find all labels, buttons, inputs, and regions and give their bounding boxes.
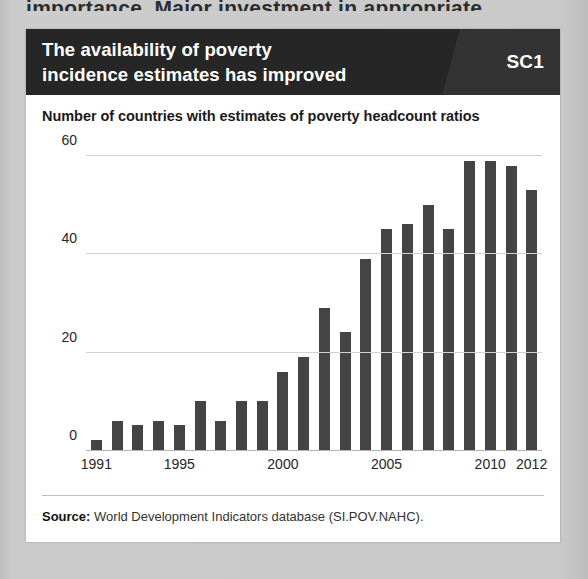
chart-bar-slot	[438, 146, 459, 450]
chart-bar	[402, 224, 413, 450]
chart-bar	[506, 166, 517, 450]
chart-bar	[485, 161, 496, 450]
chart-bars	[86, 146, 542, 450]
y-axis-tick-label: 60	[61, 132, 77, 148]
chart-subtitle: Number of countries with estimates of po…	[42, 108, 560, 124]
figure-header: The availability of poverty incidence es…	[26, 29, 560, 95]
figure-title: The availability of poverty incidence es…	[42, 37, 412, 87]
x-axis-tick-label: 2005	[371, 456, 402, 472]
chart-bar-slot	[148, 146, 169, 450]
chart-gridline	[86, 253, 542, 254]
chart-bar-slot	[397, 146, 418, 450]
figure-card: The availability of poverty incidence es…	[26, 29, 560, 542]
y-axis-tick-label: 0	[69, 427, 77, 443]
y-axis-tick-label: 40	[61, 230, 77, 246]
chart-bar-slot	[376, 146, 397, 450]
chart-plot-wrapper: 0204060199119952000200520102012	[26, 134, 560, 464]
chart-bar	[360, 259, 371, 450]
x-axis-tick-label: 1991	[81, 456, 112, 472]
cutoff-body-text: importance. Major investment in appropri…	[26, 0, 566, 11]
chart-bar	[132, 425, 143, 450]
figure-title-line1: The availability of poverty	[42, 39, 272, 60]
chart-bar	[443, 229, 454, 450]
chart-gridline	[86, 155, 542, 156]
chart-bar	[112, 421, 123, 450]
x-axis-tick-label: 1995	[164, 456, 195, 472]
chart-bar-slot	[190, 146, 211, 450]
chart-bar	[319, 308, 330, 450]
chart-bar	[277, 372, 288, 450]
chart-bar-slot	[107, 146, 128, 450]
chart-bar-slot	[273, 146, 294, 450]
chart-bar	[298, 357, 309, 450]
chart-bar-slot	[501, 146, 522, 450]
chart-bar-slot	[480, 146, 501, 450]
footer-divider	[42, 495, 544, 496]
chart-bar	[423, 205, 434, 450]
chart-bar-slot	[169, 146, 190, 450]
figure-source: Source: World Development Indicators dat…	[42, 509, 424, 524]
chart-bar	[464, 161, 475, 450]
chart-bar	[526, 190, 537, 450]
chart-bar	[236, 401, 247, 450]
chart-bar	[195, 401, 206, 450]
chart-bar	[215, 421, 226, 450]
chart-gridline	[86, 352, 542, 353]
chart-bar	[153, 421, 164, 450]
y-axis-tick-label: 20	[61, 329, 77, 345]
chart-bar	[257, 401, 268, 450]
chart-bar-slot	[293, 146, 314, 450]
chart-bar-slot	[86, 146, 107, 450]
chart-bar-slot	[418, 146, 439, 450]
chart-bar	[340, 332, 351, 450]
chart-bar-slot	[335, 146, 356, 450]
chart-bar-slot	[356, 146, 377, 450]
chart-bar-slot	[231, 146, 252, 450]
figure-badge: SC1	[506, 51, 544, 73]
source-label: Source:	[42, 509, 90, 524]
chart-bar	[91, 440, 102, 450]
x-axis-tick-label: 2010	[475, 456, 506, 472]
chart-bar-slot	[314, 146, 335, 450]
chart-bar-slot	[459, 146, 480, 450]
figure-title-line2: incidence estimates has improved	[42, 64, 346, 85]
x-axis-tick-label: 2012	[516, 456, 547, 472]
chart-baseline	[86, 450, 542, 451]
chart-bar-slot	[521, 146, 542, 450]
chart-bar	[174, 425, 185, 450]
chart-bar-slot	[210, 146, 231, 450]
chart-bar-slot	[127, 146, 148, 450]
x-axis-tick-label: 2000	[267, 456, 298, 472]
source-text: World Development Indicators database (S…	[94, 509, 423, 524]
chart-bar-slot	[252, 146, 273, 450]
chart-bar	[381, 229, 392, 450]
chart-plot-area: 0204060199119952000200520102012	[86, 146, 542, 451]
